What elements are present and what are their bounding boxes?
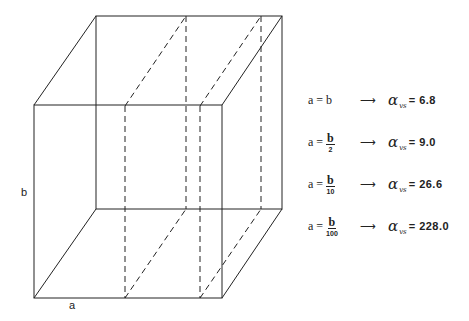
alpha-value: 6.8 (419, 94, 436, 106)
alpha-symbol: αvs (388, 133, 407, 152)
ratio-row-1: a = b ⟶ αvs = 6.8 (308, 88, 436, 112)
ratio-row-2: a = b2 ⟶ αvs = 9.0 (308, 130, 436, 154)
ratio-expression: a = b10 (308, 174, 354, 195)
height-label: b (21, 186, 27, 198)
ratio-expression: a = b (308, 93, 354, 108)
back-face (96, 16, 282, 209)
fraction: b100 (326, 216, 338, 237)
fraction: b10 (326, 174, 335, 195)
cube-diagram (0, 0, 469, 321)
edge-bottom-left (34, 209, 96, 298)
alpha-symbol: αvs (388, 91, 407, 110)
alpha-value: 228.0 (419, 220, 449, 232)
ratio-row-4: a = b100 ⟶ αvs = 228.0 (308, 214, 449, 238)
arrow-icon: ⟶ (354, 178, 382, 191)
arrow-icon: ⟶ (354, 94, 382, 107)
dashed-slab (125, 16, 261, 298)
ratio-expression: a = b2 (308, 132, 354, 153)
alpha-symbol: αvs (388, 217, 407, 236)
alpha-value: 26.6 (419, 178, 442, 190)
arrow-icon: ⟶ (354, 136, 382, 149)
ratio-expression: a = b100 (308, 216, 354, 237)
front-face (34, 105, 222, 298)
edge-top-left (34, 16, 96, 105)
alpha-value: 9.0 (419, 136, 436, 148)
arrow-icon: ⟶ (354, 220, 382, 233)
ratio-row-3: a = b10 ⟶ αvs = 26.6 (308, 172, 443, 196)
width-label: a (69, 299, 75, 311)
alpha-symbol: αvs (388, 175, 407, 194)
fraction: b2 (326, 132, 335, 153)
